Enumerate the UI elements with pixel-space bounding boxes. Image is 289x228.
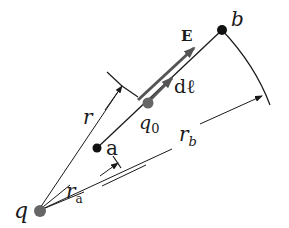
label-q0: q0 bbox=[139, 111, 159, 136]
r-arrow bbox=[105, 86, 122, 110]
dl-arrow bbox=[150, 78, 172, 100]
label-rb-sub: b bbox=[189, 134, 197, 149]
r-tick bbox=[107, 72, 138, 97]
label-r: r bbox=[83, 105, 94, 129]
label-e: E bbox=[181, 27, 192, 45]
label-b: b bbox=[231, 7, 244, 31]
ra-arrow bbox=[100, 163, 118, 176]
label-ra-sub: a bbox=[76, 192, 83, 206]
label-a: a bbox=[106, 136, 118, 160]
label-q0-main: q bbox=[139, 111, 151, 133]
label-q0-sub: 0 bbox=[151, 121, 159, 136]
point-b bbox=[217, 25, 227, 35]
point-a bbox=[93, 144, 102, 153]
charge-q bbox=[34, 205, 46, 217]
rb-line-lower bbox=[38, 149, 172, 211]
label-dl: dℓ bbox=[174, 75, 195, 97]
label-q: q bbox=[14, 198, 28, 223]
label-rb: rb bbox=[179, 122, 197, 149]
label-ra: ra bbox=[66, 179, 83, 206]
rb-arc bbox=[222, 30, 270, 105]
ra-line-upper bbox=[102, 165, 146, 186]
test-charge-q0 bbox=[143, 98, 154, 109]
rb-line-upper bbox=[200, 96, 262, 124]
diagram-canvas: q a b r q0 ra rb E dℓ bbox=[0, 0, 289, 228]
